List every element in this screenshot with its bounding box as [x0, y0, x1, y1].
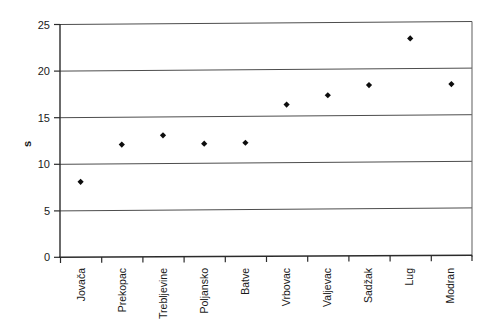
x-tick-label-valjevac: Valjevac: [321, 268, 333, 307]
x-tick-label-vrbovac: Vrbovac: [280, 268, 292, 306]
x-tick-label-trebljevine: Trebljevine: [157, 268, 169, 319]
plot-area-background: [60, 24, 472, 257]
y-tick-label-20: 20: [38, 65, 50, 77]
chart-canvas: 25 20 15 10 5 0 s Jovača Prekopac: [0, 0, 497, 332]
x-tick-label-lug: Lug: [403, 268, 415, 286]
x-tick-label-poljansko: Poljansko: [198, 268, 210, 314]
y-tick-label-5: 5: [44, 205, 50, 217]
y-tick-label-25: 25: [38, 19, 50, 31]
y-tick-labels: 25 20 15 10 5 0: [38, 19, 50, 264]
scatter-chart: 25 20 15 10 5 0 s Jovača Prekopac: [0, 0, 497, 332]
x-tick-label-batve: Batve: [239, 268, 251, 295]
y-tick-label-15: 15: [38, 112, 50, 124]
x-tick-label-jovaca: Jovača: [75, 268, 87, 301]
y-axis-title: s: [21, 141, 33, 147]
x-tick-label-modran: Modran: [444, 268, 456, 304]
x-tick-label-prekopac: Prekopac: [116, 268, 128, 312]
y-tick-label-0: 0: [44, 251, 50, 263]
y-tick-marks: [54, 25, 60, 258]
x-tick-label-sadzak: Sadžak: [362, 267, 374, 303]
x-tick-labels: Jovača Prekopac Trebljevine Poljansko Ba…: [75, 267, 456, 319]
y-tick-label-10: 10: [38, 158, 50, 170]
